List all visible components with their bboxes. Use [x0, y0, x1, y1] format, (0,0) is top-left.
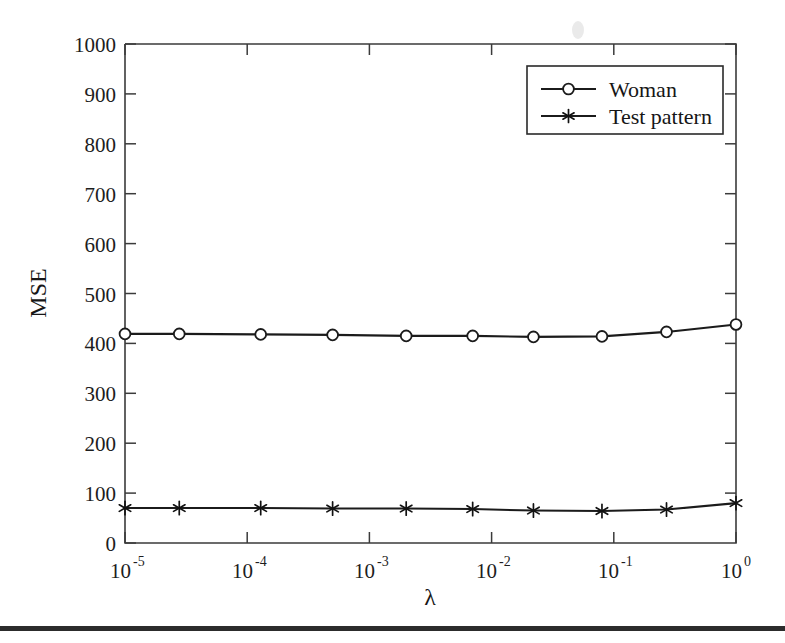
y-tick-label: 500 — [85, 283, 117, 307]
figure-container: 1000 900 800 700 600 500 400 300 200 100… — [0, 0, 785, 643]
circle-marker-icon — [401, 331, 412, 342]
x-tick-label: 10 -4 — [232, 554, 267, 583]
legend: Woman Test pattern — [527, 66, 723, 134]
y-tick-label: 600 — [85, 233, 117, 257]
circle-marker-icon — [563, 84, 574, 95]
y-axis-tick-labels: 1000 900 800 700 600 500 400 300 200 100… — [74, 33, 116, 556]
circle-marker-icon — [528, 332, 539, 343]
series-line — [125, 503, 736, 511]
y-tick-label: 200 — [85, 432, 117, 456]
series-line — [125, 324, 736, 336]
x-tick-label: 10 -5 — [110, 554, 145, 583]
x-tick-base: 10 — [232, 559, 253, 583]
y-tick-label: 300 — [85, 382, 117, 406]
page-edge-rule — [0, 626, 785, 631]
y-axis-title: MSE — [25, 268, 51, 317]
x-tick-label: 10 -1 — [598, 554, 633, 583]
x-tick-exponent: 0 — [744, 554, 751, 569]
x-tick-base: 10 — [476, 559, 497, 583]
y-tick-label: 700 — [85, 183, 117, 207]
x-tick-exponent: -5 — [133, 554, 145, 569]
x-tick-exponent: -3 — [377, 554, 389, 569]
x-tick-exponent: -4 — [255, 554, 267, 569]
x-tick-label: 10 0 — [721, 554, 751, 583]
mse-vs-lambda-line-chart: 1000 900 800 700 600 500 400 300 200 100… — [0, 0, 785, 643]
x-tick-exponent: -1 — [621, 554, 633, 569]
x-tick-base: 10 — [354, 559, 375, 583]
x-tick-base: 10 — [110, 559, 131, 583]
x-tick-label: 10 -2 — [476, 554, 511, 583]
legend-label: Woman — [609, 77, 677, 102]
x-tick-base: 10 — [598, 559, 619, 583]
circle-marker-icon — [731, 319, 742, 330]
x-tick-exponent: -2 — [499, 554, 511, 569]
y-tick-label: 900 — [85, 83, 117, 107]
circle-marker-icon — [467, 331, 478, 342]
circle-marker-icon — [327, 330, 338, 341]
data-series-layer — [119, 319, 741, 518]
circle-marker-icon — [174, 329, 185, 340]
y-tick-label: 400 — [85, 332, 117, 356]
x-tick-label: 10 -3 — [354, 554, 389, 583]
x-tick-base: 10 — [721, 559, 742, 583]
x-axis-tick-labels: 10 -5 10 -4 10 -3 10 -2 10 -1 10 0 — [110, 554, 751, 583]
circle-marker-icon — [120, 329, 131, 340]
y-tick-label: 800 — [85, 133, 117, 157]
x-axis-title: λ — [424, 584, 436, 610]
data-series — [119, 496, 741, 517]
y-tick-label: 100 — [85, 482, 117, 506]
circle-marker-icon — [255, 329, 266, 340]
data-series — [120, 319, 742, 342]
circle-marker-icon — [597, 331, 608, 342]
circle-marker-icon — [661, 327, 672, 338]
y-tick-label: 1000 — [74, 33, 116, 57]
legend-label: Test pattern — [609, 104, 712, 129]
y-tick-label: 0 — [106, 532, 117, 556]
